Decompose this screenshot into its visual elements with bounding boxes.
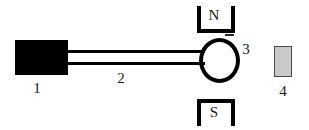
callout-label-3: 3 — [238, 42, 254, 57]
north-pole-tick-mark — [225, 34, 234, 36]
north-pole-letter: N — [197, 8, 231, 23]
gray-slab-part-4 — [274, 46, 292, 77]
callout-label-4: 4 — [274, 84, 292, 99]
south-pole-letter: S — [197, 105, 231, 120]
diagram-canvas: N S 1 2 3 4 — [0, 0, 309, 130]
callout-label-1: 1 — [29, 81, 45, 96]
callout-label-2: 2 — [113, 71, 129, 86]
black-block-part-1 — [15, 40, 68, 75]
connecting-rod-top-line — [66, 50, 205, 53]
coil-circle-part-3 — [199, 38, 240, 83]
connecting-rod-bottom-line — [66, 62, 205, 65]
